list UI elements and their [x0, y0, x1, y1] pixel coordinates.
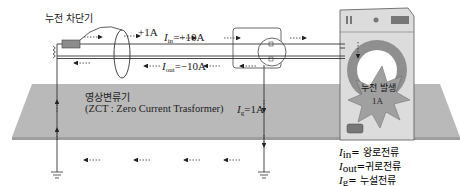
i-in-label: Iin=+10A [164, 32, 204, 45]
legend-row-in: Iin= 왕로전류 [339, 146, 401, 160]
breaker-box [62, 40, 80, 48]
leak-value: 1A [372, 97, 383, 106]
ig-label: Ig=1A [237, 104, 264, 117]
washing-machine [340, 8, 414, 140]
legend-row-out: Iout=귀로전류 [339, 160, 401, 174]
breaker-label: 누전 차단기 [45, 14, 93, 24]
zct-label-kr: 영상변류기 [85, 93, 130, 103]
zct-label-en: (ZCT : Zero Current Trasformer) [85, 104, 224, 115]
legend: Iin= 왕로전류 Iout=귀로전류 Ig= 누설전류 [339, 146, 401, 186]
ground-symbols [51, 172, 270, 178]
legend-row-g: Ig= 누설전류 [339, 174, 401, 186]
leakage-breaker-diagram: 누전 차단기 +1A Iin=+10A Iout=−10A 영상변류기 (ZCT… [0, 0, 460, 186]
i-out-label: Iout=−10A [162, 61, 206, 74]
wall-outlet [233, 28, 286, 68]
leak-title: 누전 발생 [361, 84, 396, 93]
plus-1a-label: +1A [138, 27, 158, 38]
zct-ring [114, 30, 130, 78]
